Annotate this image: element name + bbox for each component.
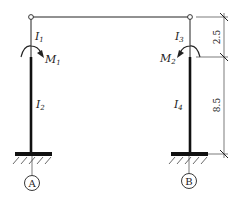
dimension-upper: 2.5 (212, 30, 222, 45)
svg-text:B: B (185, 176, 192, 187)
label-i3: I3 (174, 30, 184, 44)
node-b-marker: B (182, 174, 197, 189)
node-a-marker: A (25, 176, 40, 191)
left-fixed-support-icon (13, 152, 52, 175)
dimension-lower: 8.5 (212, 98, 222, 113)
right-fixed-support-icon (169, 152, 208, 173)
label-m1: M1 (44, 53, 61, 67)
label-i4: I4 (173, 98, 183, 112)
left-hinge-icon (29, 15, 34, 20)
label-m2: M2 (159, 52, 176, 66)
moment-m2-arrow-icon (177, 46, 200, 58)
label-i1: I1 (34, 30, 44, 44)
moment-m1-arrow-icon (21, 46, 44, 58)
right-hinge-icon (188, 15, 193, 20)
label-i2: I2 (35, 98, 45, 112)
svg-text:A: A (27, 178, 36, 189)
frame-diagram: I1 M1 I2 I3 M2 I4 A B (0, 0, 238, 200)
